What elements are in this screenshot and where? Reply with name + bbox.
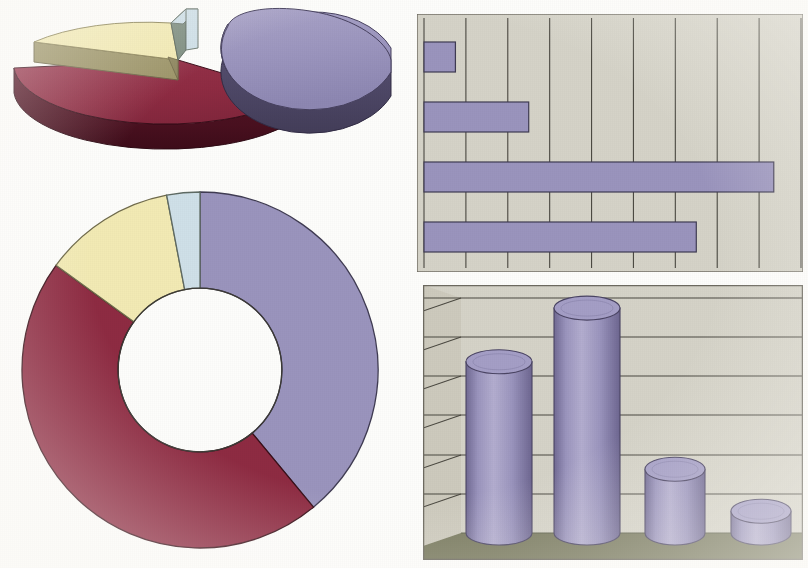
doughnut-svg <box>0 172 404 568</box>
bar-category-1[interactable] <box>424 42 455 72</box>
cylinder-category-1[interactable] <box>466 350 532 545</box>
exploded-pie-3d-svg <box>0 0 404 175</box>
bar-category-4[interactable] <box>424 222 696 252</box>
bar-category-3[interactable] <box>424 162 774 192</box>
horizontal-bar-chart <box>417 14 803 272</box>
exploded-pie-3d-chart <box>0 0 404 175</box>
cylinder-column-3d-chart <box>423 285 803 560</box>
cylinder-column-svg <box>423 285 803 560</box>
cylinder-category-4[interactable] <box>731 499 791 545</box>
bar-category-2[interactable] <box>424 102 529 132</box>
cylinder-category-2[interactable] <box>554 296 620 545</box>
doughnut-hole <box>118 288 282 452</box>
doughnut-chart <box>0 172 404 568</box>
cylinder-category-3[interactable] <box>645 457 705 545</box>
pie-slice-series-a-exploded[interactable] <box>221 8 391 133</box>
horizontal-bar-svg <box>417 14 803 272</box>
chart-collage-canvas <box>0 0 808 568</box>
